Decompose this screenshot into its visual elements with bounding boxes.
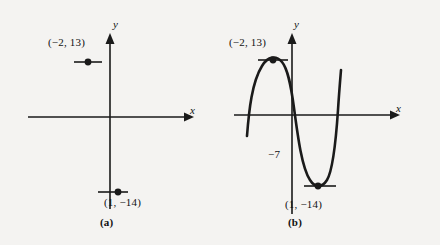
x-axis-a xyxy=(28,113,194,122)
panel-caption-a: (a) xyxy=(100,216,113,228)
point-label-minimum: (1, −14) xyxy=(285,198,322,210)
point-marker-bottom-a xyxy=(98,189,128,196)
point-marker-top-a xyxy=(74,59,102,66)
panel-caption-b: (b) xyxy=(288,216,302,228)
y-axis-a xyxy=(106,33,115,209)
y-axis-label: y xyxy=(113,18,118,30)
point-marker-minimum-b xyxy=(304,183,336,190)
panel-b: y x (−2, 13) −7 (1, −14) (b) xyxy=(220,0,440,245)
x-axis-label: x xyxy=(190,104,195,116)
point-label-minimum: (1, −14) xyxy=(104,196,141,208)
x-axis-b xyxy=(234,111,400,120)
panel-a: y x (−2, 13) (1, −14) (a) xyxy=(0,0,220,245)
figure-container: y x (−2, 13) (1, −14) (a) xyxy=(0,0,440,245)
panel-a-graphic xyxy=(0,0,220,245)
y-axis-label: y xyxy=(294,18,299,30)
point-label-maximum: (−2, 13) xyxy=(48,36,85,48)
cubic-curve xyxy=(247,57,341,186)
x-axis-label: x xyxy=(396,102,401,114)
point-label-maximum: (−2, 13) xyxy=(229,36,266,48)
y-intercept-label: −7 xyxy=(268,148,280,160)
